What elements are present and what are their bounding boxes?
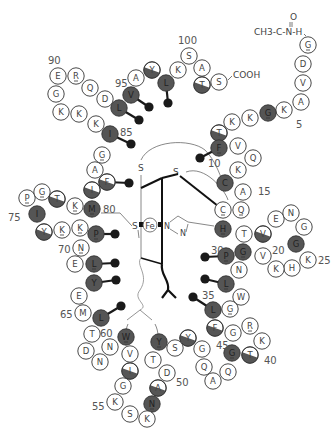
residue-letter: E [273, 214, 278, 224]
residue-letter: N [149, 399, 155, 409]
residue-letter: D [164, 368, 171, 378]
residue: Y [151, 334, 167, 350]
residue-letter: E [76, 291, 81, 301]
residue-letter: E [55, 71, 60, 81]
side-chain-ball [163, 98, 172, 107]
residue-letter: G [265, 108, 272, 118]
sulfur-label-met80: S [132, 221, 138, 231]
position-number: 90 [48, 55, 61, 66]
residue: G [48, 86, 64, 102]
residue-letter: T [88, 329, 95, 339]
residue-letter: Q [250, 153, 257, 163]
residue: N [283, 205, 299, 221]
residue-letter: S [186, 51, 191, 61]
residue: S [181, 48, 197, 64]
side-chain-ball [110, 229, 119, 238]
residue: L [218, 276, 234, 292]
residue-letter: K [175, 65, 181, 75]
residue: H [284, 260, 300, 276]
residue: K [139, 411, 155, 427]
position-number: 20 [272, 245, 285, 256]
residue-letter: K [93, 119, 99, 129]
residue-letter: G [199, 344, 206, 354]
residue-letter: D [102, 94, 109, 104]
residue: K [300, 252, 316, 268]
residue: A [87, 162, 103, 178]
side-chain-ball [110, 258, 119, 267]
residue-letter: C [220, 205, 226, 215]
residue-letter: V [127, 349, 133, 359]
position-number: 75 [8, 212, 21, 223]
residue: Y [86, 275, 102, 291]
residue: D [295, 56, 311, 72]
residue-letter: N [236, 265, 242, 275]
residue: N [92, 354, 108, 370]
residue-letter: Y [155, 337, 162, 347]
residue-letter: E [72, 259, 77, 269]
residue-letter: K [247, 113, 253, 123]
residue: D [78, 343, 94, 359]
residue: G [260, 105, 276, 121]
residue: L [111, 100, 127, 116]
position-number: 50 [176, 377, 189, 388]
residue-letter: D [300, 59, 307, 69]
carbonyl-oxygen: O [290, 12, 297, 22]
histidine-n2: N [180, 229, 186, 238]
residue-letter: H [289, 263, 295, 273]
residue: K [72, 220, 88, 236]
residue-letter: M [88, 204, 95, 214]
residue-letter: G [120, 381, 127, 391]
residue-letter: Q [238, 205, 245, 215]
residue-letter: A [199, 63, 205, 73]
residue: I [84, 182, 100, 198]
residue-letter: K [281, 105, 287, 115]
position-number: 5 [296, 119, 302, 130]
position-number: 85 [120, 127, 133, 138]
residue: G [300, 37, 316, 53]
residue-letter: F [213, 323, 218, 333]
residue: E [67, 256, 83, 272]
residue-letter: Q [87, 83, 94, 93]
residue-letter: P [223, 251, 228, 261]
residue-letter: K [59, 225, 65, 235]
residue: V [122, 346, 138, 362]
residue: V [295, 75, 311, 91]
residue: I [122, 363, 138, 379]
residue-letter: H [220, 224, 226, 234]
residue: S [167, 340, 183, 356]
residue: K [224, 114, 240, 130]
residue: G [115, 378, 131, 394]
position-number: 35 [202, 290, 215, 301]
position-number: 45 [216, 340, 229, 351]
position-number: 15 [258, 186, 271, 197]
residue: T [211, 125, 227, 141]
residue-letter: G [230, 328, 237, 338]
residue: G [34, 184, 50, 200]
residue-letter: L [92, 259, 97, 269]
residue: P [88, 226, 104, 242]
residue-letter: K [72, 201, 78, 211]
residue: V [123, 87, 139, 103]
residue-letter: T [240, 229, 247, 239]
side-chain-ball [124, 178, 133, 187]
side-chain-ball [200, 252, 209, 261]
residue: C [217, 175, 233, 191]
residue-letter: W [122, 332, 131, 342]
side-chain-ball [116, 301, 125, 310]
residue: E [71, 288, 87, 304]
residue: A [194, 60, 210, 76]
residue-letter: A [133, 73, 139, 83]
residue: F [99, 174, 115, 190]
position-number: 10 [208, 158, 221, 169]
position-number: 100 [178, 35, 197, 46]
residue-letter: V [260, 229, 266, 239]
residue-letter: A [92, 165, 98, 175]
side-chain-ball [134, 115, 143, 124]
residue-letter: A [155, 383, 161, 393]
residue-letter: C [222, 178, 228, 188]
residue-letter: P [93, 229, 98, 239]
residue: G [222, 301, 238, 317]
residue: T [84, 326, 100, 342]
residue-letter: N [78, 243, 84, 253]
residue: G [296, 219, 312, 235]
